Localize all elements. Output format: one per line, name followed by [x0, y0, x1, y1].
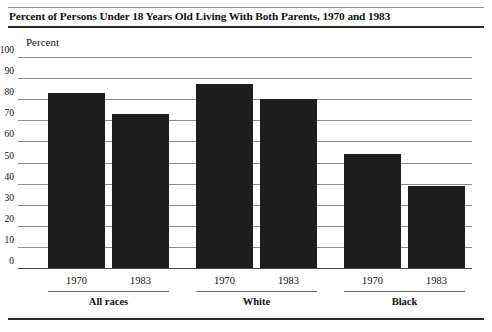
group-underline: [344, 291, 465, 292]
y-axis-tick-label: 30: [0, 193, 14, 204]
chart-figure: Percent of Persons Under 18 Years Old Li…: [0, 0, 492, 332]
y-axis-tick-label: 70: [0, 108, 14, 119]
x-axis-group-label: White: [196, 295, 317, 308]
y-axis-title: Percent: [26, 36, 59, 49]
x-axis-year-label: 1970: [195, 275, 255, 287]
bar: [196, 84, 253, 268]
bar: [112, 114, 169, 268]
x-axis-year-label: 1983: [407, 275, 467, 287]
group-underline: [48, 291, 169, 292]
title-bottom-rule: [8, 26, 484, 28]
x-axis-year-label: 1983: [259, 275, 319, 287]
bar: [344, 154, 401, 268]
y-axis-tick-label: 20: [0, 214, 14, 225]
title-top-rule: [8, 7, 484, 8]
y-axis-tick-label: 80: [0, 87, 14, 98]
gridline: 0: [18, 268, 472, 269]
bar: [260, 99, 317, 268]
x-axis-year-label: 1970: [343, 275, 403, 287]
x-axis-group-label: All races: [48, 295, 169, 308]
bar: [48, 93, 105, 268]
y-axis-tick-label: 60: [0, 129, 14, 140]
bar: [408, 186, 465, 268]
x-axis-group-label: Black: [344, 295, 465, 308]
y-axis-tick-label: 90: [0, 66, 14, 77]
y-axis-tick-label: 50: [0, 151, 14, 162]
gridline: 90: [18, 78, 472, 79]
gridline: 100: [18, 57, 472, 58]
x-axis-year-label: 1983: [111, 275, 171, 287]
figure-bottom-rule: [8, 318, 484, 320]
y-axis-tick-label: 100: [0, 45, 14, 56]
page-title: Percent of Persons Under 18 Years Old Li…: [9, 9, 483, 24]
plot-area: 1009080706050403020100: [48, 57, 472, 268]
y-axis-tick-label: 0: [0, 256, 14, 267]
x-axis-year-label: 1970: [47, 275, 107, 287]
y-axis-tick-label: 10: [0, 235, 14, 246]
y-axis-tick-label: 40: [0, 172, 14, 183]
group-underline: [196, 291, 317, 292]
